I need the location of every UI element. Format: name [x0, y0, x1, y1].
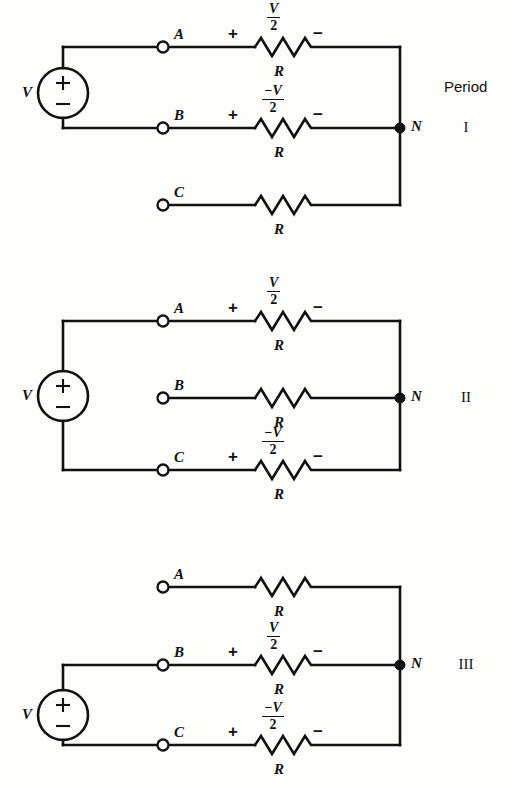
- circuit-2-terminal-a-label: A: [174, 301, 184, 316]
- circuit-2-row-c-plus: +: [228, 448, 238, 465]
- circuit-3-terminal-c-label: C: [174, 725, 184, 740]
- circuit-3-row-c-voltage-drop: −V 2: [262, 701, 284, 732]
- circuit-3-row-c-minus: −: [313, 723, 323, 740]
- circuit-2-row-a-drop-denominator: 2: [267, 292, 280, 307]
- period-column-header: Period: [444, 78, 487, 95]
- circuit-2-source-label: V: [22, 388, 32, 403]
- circuit-2-row-a-minus: −: [313, 299, 323, 316]
- circuit-3-row-b-resistor-label: R: [274, 682, 284, 697]
- circuit-3-terminal-b[interactable]: [158, 660, 169, 671]
- circuit-1-row-a-resistor-label: R: [274, 64, 284, 79]
- circuit-2-source-symbol: [38, 371, 88, 421]
- circuit-1-row-a-resistor: [255, 38, 400, 56]
- circuit-3-group: [38, 578, 405, 754]
- circuit-3-row-a-resistor: [255, 578, 400, 596]
- circuit-3-source-symbol: [38, 690, 88, 740]
- circuit-3-terminal-a[interactable]: [158, 582, 169, 593]
- circuit-3-period-label: III: [444, 656, 488, 673]
- circuit-1-row-a-plus: +: [228, 25, 238, 42]
- circuit-1-row-b-plus: +: [228, 106, 238, 123]
- circuit-3-row-b-drop-denominator: 2: [267, 637, 280, 652]
- circuit-1-terminal-b-label: B: [174, 108, 184, 123]
- figure-canvas: V A B C N + − V 2 R + − −V 2 R R Period …: [0, 0, 513, 787]
- circuit-2-row-c-drop-denominator: 2: [262, 442, 284, 457]
- circuit-1-row-b-voltage-drop: −V 2: [262, 84, 284, 115]
- circuit-3-row-b-plus: +: [228, 643, 238, 660]
- circuit-3-row-c-resistor-label: R: [274, 762, 284, 777]
- circuit-1-row-c-resistor: [255, 196, 400, 214]
- circuit-1-row-b-resistor: [255, 119, 400, 137]
- circuit-schematic-svg: [0, 0, 513, 787]
- circuit-1-row-c-resistor-label: R: [274, 222, 284, 237]
- circuit-1-row-a-voltage-drop: V 2: [267, 2, 280, 33]
- circuit-2-row-a-resistor-label: R: [274, 338, 284, 353]
- circuit-1-row-b-drop-numerator: −V: [262, 84, 284, 100]
- circuit-3-node-n-label: N: [411, 656, 422, 671]
- circuit-2-terminal-b-label: B: [174, 378, 184, 393]
- circuit-3-terminal-a-label: A: [174, 567, 184, 582]
- circuit-2-node-n-dot: [395, 393, 405, 403]
- circuit-3-terminal-b-label: B: [174, 645, 184, 660]
- circuit-1-source-symbol: [38, 68, 88, 118]
- circuit-1-source-label: V: [22, 85, 32, 100]
- circuit-3-row-a-resistor-label: R: [274, 604, 284, 619]
- circuit-2-row-c-resistor: [255, 461, 400, 479]
- circuit-1-terminal-b[interactable]: [158, 123, 169, 134]
- circuit-2-row-a-resistor: [255, 312, 400, 330]
- circuit-3-row-c-drop-numerator: −V: [262, 701, 284, 717]
- circuit-2-row-c-voltage-drop: −V 2: [262, 426, 284, 457]
- circuit-1-group: [38, 38, 405, 214]
- circuit-3-row-b-voltage-drop: V 2: [267, 621, 280, 652]
- circuit-1-node-n-label: N: [411, 119, 422, 134]
- circuit-2-row-a-voltage-drop: V 2: [267, 276, 280, 307]
- circuit-2-row-a-plus: +: [228, 299, 238, 316]
- circuit-1-row-a-minus: −: [313, 25, 323, 42]
- circuit-1-row-b-resistor-label: R: [274, 145, 284, 160]
- circuit-2-terminal-c-label: C: [174, 450, 184, 465]
- circuit-2-row-c-resistor-label: R: [274, 487, 284, 502]
- circuit-2-row-b-resistor: [255, 389, 400, 407]
- circuit-1-terminal-a[interactable]: [158, 42, 169, 53]
- circuit-1-terminal-a-label: A: [174, 27, 184, 42]
- circuit-1-terminal-c[interactable]: [158, 200, 169, 211]
- circuit-3-row-c-plus: +: [228, 723, 238, 740]
- circuit-1-row-a-drop-numerator: V: [267, 2, 280, 18]
- circuit-2-terminal-b[interactable]: [158, 393, 169, 404]
- circuit-1-row-a-drop-denominator: 2: [267, 18, 280, 33]
- circuit-3-row-b-resistor: [255, 656, 400, 674]
- circuit-2-terminal-a[interactable]: [158, 316, 169, 327]
- circuit-2-node-n-label: N: [411, 389, 422, 404]
- circuit-1-period-label: I: [444, 119, 488, 136]
- circuit-2-row-a-drop-numerator: V: [267, 276, 280, 292]
- circuit-3-row-c-resistor: [255, 736, 400, 754]
- circuit-2-group: [38, 312, 405, 479]
- circuit-2-terminal-c[interactable]: [158, 465, 169, 476]
- circuit-1-row-b-drop-denominator: 2: [262, 100, 284, 115]
- circuit-3-terminal-c[interactable]: [158, 740, 169, 751]
- circuit-2-row-c-minus: −: [313, 448, 323, 465]
- circuit-2-period-label: II: [444, 389, 488, 406]
- circuit-3-row-b-minus: −: [313, 643, 323, 660]
- circuit-1-row-b-minus: −: [313, 106, 323, 123]
- circuit-2-row-c-drop-numerator: −V: [262, 426, 284, 442]
- circuit-3-row-b-drop-numerator: V: [267, 621, 280, 637]
- circuit-1-terminal-c-label: C: [174, 185, 184, 200]
- circuit-3-node-n-dot: [395, 660, 405, 670]
- circuit-3-row-c-drop-denominator: 2: [262, 717, 284, 732]
- circuit-1-node-n-dot: [395, 123, 405, 133]
- circuit-3-source-label: V: [22, 707, 32, 722]
